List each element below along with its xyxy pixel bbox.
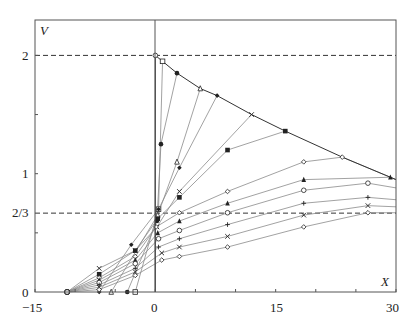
y-tick-label-0: 0 <box>22 285 29 300</box>
marker-open-circle <box>301 188 306 193</box>
marker-open-diamond <box>340 155 345 160</box>
marker-filled-square <box>177 195 182 200</box>
marker-filled-triangle <box>155 230 160 235</box>
marker-open-diamond-small <box>366 210 371 215</box>
x-tick-label-15: 15 <box>270 300 283 315</box>
marker-plus <box>177 236 182 241</box>
marker-filled-square <box>283 129 288 134</box>
y-tick-label-2: 2 <box>22 48 29 63</box>
series-markers <box>65 53 393 294</box>
marker-open-triangle <box>175 159 180 164</box>
marker-filled-diamond <box>215 93 220 98</box>
x-tick-label-0: 0 <box>151 300 158 315</box>
marker-x <box>159 251 164 256</box>
marker-open-circle <box>225 210 230 215</box>
chart: V X 2 1 2/3 0 −15 0 15 30 <box>0 0 418 320</box>
marker-open-diamond-small <box>301 225 306 230</box>
series-line-s8 <box>67 177 396 292</box>
ticks <box>35 55 396 292</box>
series-line-s5 <box>67 115 252 292</box>
y-tick-label-2-3: 2/3 <box>12 205 29 220</box>
x-tick-label-30: 30 <box>386 300 399 315</box>
marker-cross <box>177 189 182 194</box>
marker-filled-diamond <box>177 165 182 170</box>
marker-filled-square <box>133 248 138 253</box>
marker-open-triangle <box>198 86 203 91</box>
marker-open-diamond-small <box>225 245 230 250</box>
marker-open-diamond <box>225 189 230 194</box>
marker-plus <box>366 195 371 200</box>
x-tick-label-m15: −15 <box>22 300 42 315</box>
y-tick-label-1: 1 <box>22 166 29 181</box>
series-line-s7 <box>67 157 396 292</box>
marker-cross <box>97 266 102 271</box>
marker-open-diamond-small <box>159 258 164 263</box>
marker-filled-circle <box>175 71 180 76</box>
marker-plus <box>301 201 306 206</box>
marker-open-circle <box>366 181 371 186</box>
x-axis-title: X <box>380 274 390 289</box>
marker-open-diamond-small <box>177 254 182 259</box>
marker-open-circle <box>133 261 138 266</box>
marker-filled-square <box>155 216 160 221</box>
marker-open-diamond <box>301 160 306 165</box>
marker-filled-circle <box>159 142 164 147</box>
series-line-s11 <box>67 206 396 292</box>
marker-open-diamond-small <box>97 287 102 292</box>
marker-open-circle <box>177 228 182 233</box>
series-lines <box>35 55 396 292</box>
marker-plus <box>225 222 230 227</box>
marker-filled-square <box>225 148 230 153</box>
series-line-s1 <box>135 61 162 292</box>
y-axis-title: V <box>40 23 50 38</box>
marker-cross <box>249 112 254 117</box>
marker-open-circle <box>156 236 161 241</box>
marker-open-square <box>160 59 165 64</box>
marker-open-diamond <box>177 210 182 215</box>
